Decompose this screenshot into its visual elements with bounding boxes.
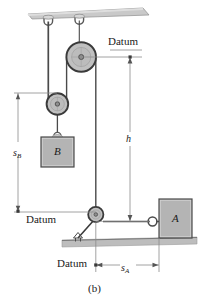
datum-left-tick <box>16 210 19 213</box>
dimension-sb-sub: B <box>17 152 21 160</box>
cord-path <box>48 21 150 222</box>
dimension-sa-sub: A <box>125 267 129 275</box>
datum-left-label: Datum <box>26 214 56 225</box>
pulley-system-figure: Datum Datum Datum B A h sB sA (b) <box>0 0 199 301</box>
dimension-h <box>96 57 150 222</box>
figure-caption: (b) <box>88 283 101 294</box>
block-a-label: A <box>172 213 179 224</box>
lower-movable-pulley <box>47 93 69 115</box>
dimension-h-label: h <box>126 134 131 144</box>
dimension-sa-label: sA <box>121 258 129 274</box>
datum-top-tick <box>129 55 132 58</box>
figure-canvas <box>0 0 199 301</box>
block-b-label: B <box>54 146 61 157</box>
dimension-sb-label: sB <box>13 143 21 159</box>
datum-bottom-label: Datum <box>57 258 87 269</box>
datum-top-label: Datum <box>108 36 138 47</box>
